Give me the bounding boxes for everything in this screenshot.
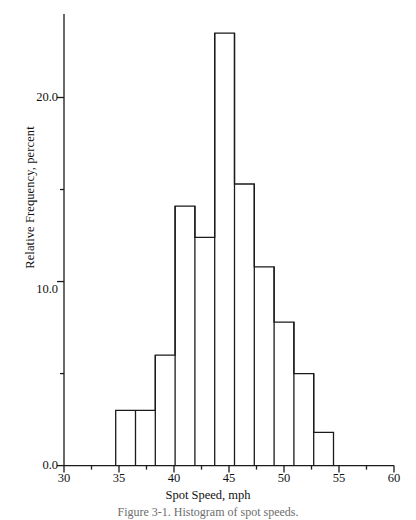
x-tick-label-50: 50 (264, 472, 304, 485)
x-tick-label-60: 60 (374, 472, 414, 485)
x-tick-label-45: 45 (209, 472, 249, 485)
x-tick-label-40: 40 (154, 472, 194, 485)
x-axis-label: Spot Speed, mph (0, 488, 416, 503)
x-tick-label-35: 35 (99, 472, 139, 485)
histogram-outline (116, 33, 334, 466)
y-tick-label-10: 10.0 (12, 283, 58, 296)
y-tick-label-0: 0.0 (12, 459, 58, 472)
x-tick-label-55: 55 (319, 472, 359, 485)
y-tick-label-20: 20.0 (12, 91, 58, 104)
y-axis-ticks (57, 98, 64, 466)
axis-lines (64, 14, 394, 466)
x-tick-label-30: 30 (44, 472, 84, 485)
histogram-bars (116, 33, 334, 466)
figure-caption: Figure 3-1. Histogram of spot speeds. (0, 505, 416, 520)
